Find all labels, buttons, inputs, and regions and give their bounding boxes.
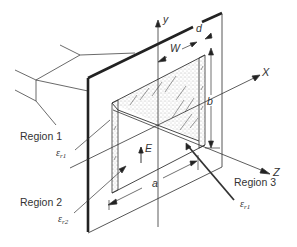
- region-2-permittivity: εr2: [58, 214, 68, 226]
- region-1-label: Region 1: [20, 131, 62, 142]
- e-field-label: E: [145, 143, 152, 154]
- thickness-label-d: d: [196, 23, 202, 34]
- height-label-b: b: [207, 96, 213, 107]
- region-2-label: Region 2: [20, 197, 62, 208]
- x-axis-label: X: [262, 67, 269, 78]
- leader-lines: [74, 120, 234, 213]
- aperture: [112, 55, 205, 193]
- y-axis-label: y: [163, 14, 168, 25]
- region-3-label: Region 3: [234, 177, 276, 188]
- e-field-arrow: [139, 147, 143, 163]
- diagram-canvas: [0, 0, 297, 247]
- region-3-permittivity: εr1: [240, 199, 250, 211]
- width-label-w: W: [170, 43, 180, 54]
- region-1-permittivity: εr1: [56, 148, 66, 160]
- length-label-a: a: [152, 178, 158, 189]
